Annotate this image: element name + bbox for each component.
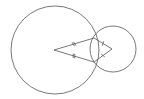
- small-circle: [90, 26, 136, 72]
- geometry-diagram: [0, 0, 144, 99]
- tick-marks: [72, 41, 105, 58]
